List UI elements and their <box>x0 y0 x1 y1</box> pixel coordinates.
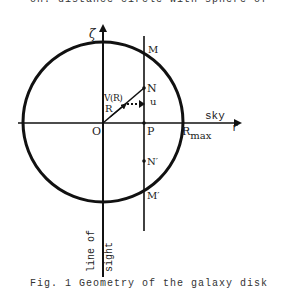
label-M-prime: M′ <box>147 190 160 201</box>
point-P <box>142 121 146 125</box>
label-u: u <box>150 96 157 107</box>
label-sky: sky <box>205 110 225 122</box>
label-zeta: ζ <box>89 27 97 41</box>
label-N: N <box>147 82 157 95</box>
label-VR: V(R) <box>103 93 122 103</box>
point-N <box>142 86 146 90</box>
bottom-caption-clipped: Fig. 1 Geometry of the galaxy disk <box>30 278 294 288</box>
label-P: P <box>147 125 155 138</box>
label-N-prime: N′ <box>147 156 159 167</box>
label-O: O <box>92 125 101 138</box>
label-line-of-sight: line of sight <box>86 230 115 272</box>
label-Rmax: Rmax <box>182 125 212 141</box>
svg-text:line of: line of <box>86 230 97 272</box>
label-R: R <box>105 103 113 114</box>
label-M: M <box>148 44 158 55</box>
svg-text:sight: sight <box>104 242 115 272</box>
label-r: r <box>232 122 239 134</box>
point-N-prime <box>142 159 146 163</box>
